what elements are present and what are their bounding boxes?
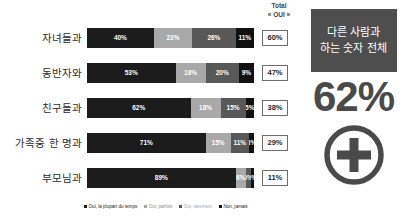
legend-swatch-icon [84,205,87,208]
legend-label: Oui, rarement [184,204,212,209]
chart-row: 친구들과62%18%15%5%38% [0,90,300,125]
bar-segment: 15% [221,98,246,118]
row-total-value: 47% [262,65,288,81]
chart-legend: Oui, la plupart du tempsOui, parfoisOui,… [84,204,300,209]
bar-segment: 11% [231,133,249,153]
stacked-bar: 62%18%15%5% [87,98,254,118]
chart-row: 자녀들과40%23%26%11%60% [0,20,300,55]
side-panel-value: 62% [313,76,394,118]
bar-segment: 71% [87,133,206,153]
row-category-label: 자녀들과 [0,30,87,45]
legend-item[interactable]: Oui, la plupart du temps [84,204,137,209]
bar-segment: 18% [176,63,206,83]
bar-segment: 2% [251,168,254,188]
total-column-header: Total « OUI » [258,2,300,20]
bar-segment: 18% [191,98,221,118]
bar-segment: 3% [249,133,254,153]
row-category-label: 가족중 한 명과 [0,135,87,150]
legend-item[interactable]: Oui, parfois [144,204,172,209]
row-total-value: 60% [262,30,288,46]
bar-segment: 9% [239,63,254,83]
chart-rows: 자녀들과40%23%26%11%60%동반자와53%18%20%9%47%친구들… [0,20,300,195]
chart-row: 동반자와53%18%20%9%47% [0,55,300,90]
circled-plus-icon [323,124,385,190]
legend-swatch-icon [179,205,182,208]
row-total-value: 11% [262,170,288,186]
stacked-bar: 89%6%3%2% [87,168,254,188]
total-header-line2: « OUI » [258,11,300,20]
row-category-label: 친구들과 [0,100,87,115]
legend-label: Oui, parfois [149,204,173,209]
stacked-bar-chart: Total « OUI » 자녀들과40%23%26%11%60%동반자와53%… [0,0,300,224]
legend-item[interactable]: Non, jamais [219,204,248,209]
stacked-bar: 53%18%20%9% [87,63,254,83]
legend-item[interactable]: Oui, rarement [179,204,212,209]
legend-label: Oui, la plupart du temps [89,204,138,209]
bar-segment: 53% [87,63,176,83]
row-category-label: 동반자와 [0,65,87,80]
stacked-bar: 40%23%26%11% [87,28,254,48]
summary-side-panel: 다른 사람과 하는 숫자 전체 62% [304,0,403,224]
bar-segment: 40% [87,28,154,48]
side-panel-title: 다른 사람과 하는 숫자 전체 [311,9,397,72]
bar-segment: 5% [246,98,254,118]
row-total-value: 29% [262,135,288,151]
side-panel-title-line1: 다른 사람과 [327,25,381,41]
chart-row: 부모님과89%6%3%2%11% [0,160,300,195]
bar-segment: 62% [87,98,191,118]
row-total-value: 38% [262,100,288,116]
bar-segment: 15% [206,133,231,153]
stacked-bar: 71%15%11%3% [87,133,254,153]
total-header-line1: Total [258,2,300,11]
chart-row: 가족중 한 명과71%15%11%3%29% [0,125,300,160]
side-panel-title-line2: 하는 숫자 전체 [320,41,387,57]
bar-segment: 23% [154,28,192,48]
row-category-label: 부모님과 [0,170,87,185]
bar-segment: 20% [206,63,239,83]
legend-label: Non, jamais [223,204,247,209]
legend-swatch-icon [219,205,222,208]
bar-segment: 89% [87,168,236,188]
bar-segment: 6% [236,168,246,188]
bar-segment: 26% [192,28,235,48]
bar-segment: 11% [236,28,254,48]
legend-swatch-icon [144,205,147,208]
